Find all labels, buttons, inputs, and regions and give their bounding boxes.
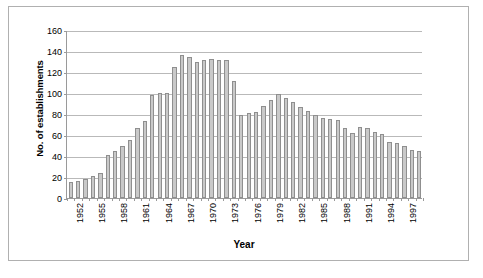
bar (165, 93, 169, 198)
bar (417, 151, 421, 198)
x-tick-mark (327, 198, 328, 201)
bar (276, 94, 280, 198)
bar (172, 67, 176, 198)
bar (247, 113, 251, 198)
bar (328, 119, 332, 198)
bar (113, 151, 117, 198)
bar (261, 106, 265, 198)
x-tick-mark (364, 198, 365, 201)
x-tick-mark (371, 198, 372, 201)
x-tick-mark (267, 198, 268, 201)
x-tick-mark (230, 198, 231, 201)
bar (410, 150, 414, 198)
bar (202, 60, 206, 198)
bar (69, 182, 73, 198)
bar (135, 128, 139, 198)
x-tick-mark (349, 198, 350, 201)
x-tick-mark (186, 198, 187, 201)
x-tick-mark (334, 198, 335, 201)
y-tick-label: 100 (47, 89, 62, 99)
x-tick-mark (67, 198, 68, 201)
bar (291, 102, 295, 198)
x-tick-mark (275, 198, 276, 201)
x-tick-label: 1997 (408, 203, 418, 223)
x-tick-mark (149, 198, 150, 201)
bar (269, 100, 273, 198)
bar (150, 95, 154, 198)
x-tick-label: 1994 (386, 203, 396, 223)
bar (380, 134, 384, 198)
bar (143, 121, 147, 198)
bar (120, 146, 124, 199)
bar (128, 140, 132, 198)
x-tick-mark (163, 198, 164, 201)
x-tick-label: 1964 (164, 203, 174, 223)
x-tick-mark (193, 198, 194, 201)
x-tick-mark (97, 198, 98, 201)
x-tick-mark (178, 198, 179, 201)
y-tick-label: 20 (52, 173, 62, 183)
y-tick-label: 80 (52, 110, 62, 120)
x-tick-label: 1955 (97, 203, 107, 223)
x-tick-mark (156, 198, 157, 201)
x-tick-label: 1979 (275, 203, 285, 223)
x-tick-mark (119, 198, 120, 201)
x-tick-mark (356, 198, 357, 201)
bar (343, 128, 347, 198)
x-axis-title: Year (66, 239, 422, 250)
bars-layer (67, 31, 422, 198)
x-tick-mark (89, 198, 90, 201)
chart-frame: No. of establishments 020406080100120140… (8, 6, 469, 261)
x-tick-mark (134, 198, 135, 201)
x-tick-mark (319, 198, 320, 201)
y-axis-title: No. of establishments (34, 39, 45, 179)
bar (106, 155, 110, 198)
bar (298, 107, 302, 198)
bar (284, 98, 288, 198)
x-tick-mark (423, 198, 424, 201)
x-tick-mark (245, 198, 246, 201)
x-tick-mark (141, 198, 142, 201)
bar (180, 55, 184, 198)
x-tick-label: 1991 (364, 203, 374, 223)
x-tick-mark (312, 198, 313, 201)
x-tick-mark (201, 198, 202, 201)
bar (195, 62, 199, 199)
bar (387, 142, 391, 198)
x-tick-label: 1967 (186, 203, 196, 223)
bar (187, 57, 191, 198)
bar (239, 115, 243, 198)
x-tick-mark (408, 198, 409, 201)
x-tick-mark (126, 198, 127, 201)
x-tick-mark (304, 198, 305, 201)
bar (336, 120, 340, 198)
bar (350, 133, 354, 198)
x-tick-mark (260, 198, 261, 201)
bar (306, 111, 310, 198)
x-tick-mark (282, 198, 283, 201)
bar (358, 127, 362, 198)
bar (313, 115, 317, 198)
bar (365, 128, 369, 198)
bar (402, 146, 406, 199)
x-tick-mark (104, 198, 105, 201)
x-tick-mark (290, 198, 291, 201)
bar (217, 60, 221, 198)
x-tick-mark (215, 198, 216, 201)
bar (321, 118, 325, 198)
x-tick-label: 1958 (119, 203, 129, 223)
x-tick-label: 1961 (141, 203, 151, 223)
bar (232, 81, 236, 198)
plot-area: 020406080100120140160 195219551958196119… (66, 31, 422, 199)
x-tick-mark (238, 198, 239, 201)
bar (83, 179, 87, 198)
x-tick-mark (416, 198, 417, 201)
x-tick-label: 1985 (319, 203, 329, 223)
x-tick-mark (171, 198, 172, 201)
y-tick-label: 60 (52, 131, 62, 141)
x-tick-label: 1973 (230, 203, 240, 223)
bar (395, 143, 399, 198)
bar (373, 132, 377, 198)
bar (254, 112, 258, 198)
bar (209, 59, 213, 198)
